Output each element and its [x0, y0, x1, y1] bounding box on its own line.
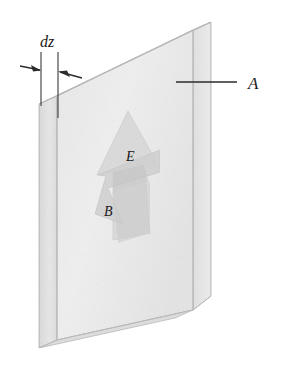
area-label: A: [247, 74, 259, 93]
dz-label: dz: [40, 33, 55, 50]
dz-arrow-left: [20, 65, 41, 72]
magnetic-field-label: B: [104, 204, 113, 219]
electric-field-label: E: [125, 149, 135, 164]
figure-container: dz A E B: [0, 0, 287, 378]
slab-left-edge-face: [39, 96, 57, 348]
magnetic-arrow-tail: [113, 182, 150, 243]
dz-arrow-right: [58, 71, 82, 79]
slab-right-face: [193, 22, 211, 310]
slab-diagram-svg: dz A E B: [0, 0, 287, 378]
